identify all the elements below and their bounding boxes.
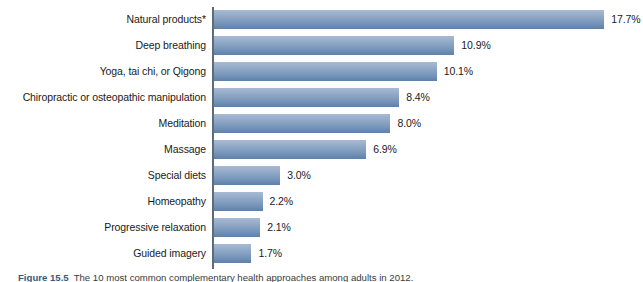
bar-category-label: Natural products* <box>127 10 206 29</box>
bar <box>214 10 604 29</box>
bar-value-label: 17.7% <box>611 10 640 29</box>
bar-row: Chiropractic or osteopathic manipulation… <box>0 88 643 114</box>
bar-value-label: 2.2% <box>270 192 294 211</box>
bar-row: Meditation8.0% <box>0 114 643 140</box>
bar-row: Deep breathing10.9% <box>0 36 643 62</box>
bar-value-label: 10.9% <box>461 36 490 55</box>
bar-value-label: 10.1% <box>444 62 473 81</box>
bar-category-label: Chiropractic or osteopathic manipulation <box>23 88 206 107</box>
bar <box>214 244 251 263</box>
bar-value-label: 2.1% <box>267 218 291 237</box>
bar <box>214 88 399 107</box>
bar-value-label: 3.0% <box>287 166 311 185</box>
bar-category-label: Homeopathy <box>147 192 206 211</box>
bar-row: Special diets3.0% <box>0 166 643 192</box>
bar <box>214 140 366 159</box>
bar <box>214 114 390 133</box>
bar-row: Homeopathy2.2% <box>0 192 643 218</box>
bar-row: Yoga, tai chi, or Qigong10.1% <box>0 62 643 88</box>
bar-category-label: Special diets <box>148 166 206 185</box>
bar <box>214 166 280 185</box>
bar-value-label: 6.9% <box>373 140 397 159</box>
caption-figure-number: Figure 15.5 <box>18 272 69 282</box>
bar-row: Natural products*17.7% <box>0 10 643 36</box>
bar-category-label: Progressive relaxation <box>104 218 206 237</box>
bar-row: Guided imagery1.7% <box>0 244 643 270</box>
bar <box>214 62 437 81</box>
bar-category-label: Massage <box>164 140 206 159</box>
figure-caption: Figure 15.5The 10 most common complement… <box>18 272 638 282</box>
bar-category-label: Meditation <box>159 114 206 133</box>
caption-text: The 10 most common complementary health … <box>74 272 414 282</box>
bar <box>214 218 260 237</box>
bar-value-label: 8.0% <box>397 114 421 133</box>
bar-category-label: Deep breathing <box>136 36 206 55</box>
bar <box>214 36 454 55</box>
bar-category-label: Guided imagery <box>133 244 206 263</box>
bar <box>214 192 263 211</box>
figure-container: Natural products*17.7%Deep breathing10.9… <box>0 0 643 282</box>
bar-category-label: Yoga, tai chi, or Qigong <box>100 62 206 81</box>
bar-value-label: 8.4% <box>406 88 430 107</box>
bar-value-label: 1.7% <box>258 244 282 263</box>
bar-row: Massage6.9% <box>0 140 643 166</box>
bar-chart: Natural products*17.7%Deep breathing10.9… <box>0 0 643 270</box>
bar-row: Progressive relaxation2.1% <box>0 218 643 244</box>
